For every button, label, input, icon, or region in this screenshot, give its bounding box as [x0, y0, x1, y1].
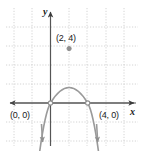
parabola-figure: (2, 4) (0, 0) (4, 0) y x	[0, 0, 142, 151]
parabola-curve	[39, 87, 99, 151]
point-marker-root	[86, 101, 90, 105]
point-marker-vertex	[67, 47, 71, 51]
root-point-label: (4, 0)	[99, 110, 119, 120]
coordinate-plane-svg	[0, 0, 142, 151]
x-axis-label: x	[130, 106, 135, 117]
grid-horizontal	[6, 27, 138, 141]
point-marker-origin	[48, 101, 52, 105]
grid-vertical	[14, 8, 124, 146]
y-axis-label: y	[43, 6, 47, 17]
parabola-right-arrow	[97, 124, 98, 142]
parabola-left-arrow	[42, 124, 43, 142]
vertex-point-label: (2, 4)	[56, 33, 76, 43]
origin-point-label: (0, 0)	[10, 110, 30, 120]
